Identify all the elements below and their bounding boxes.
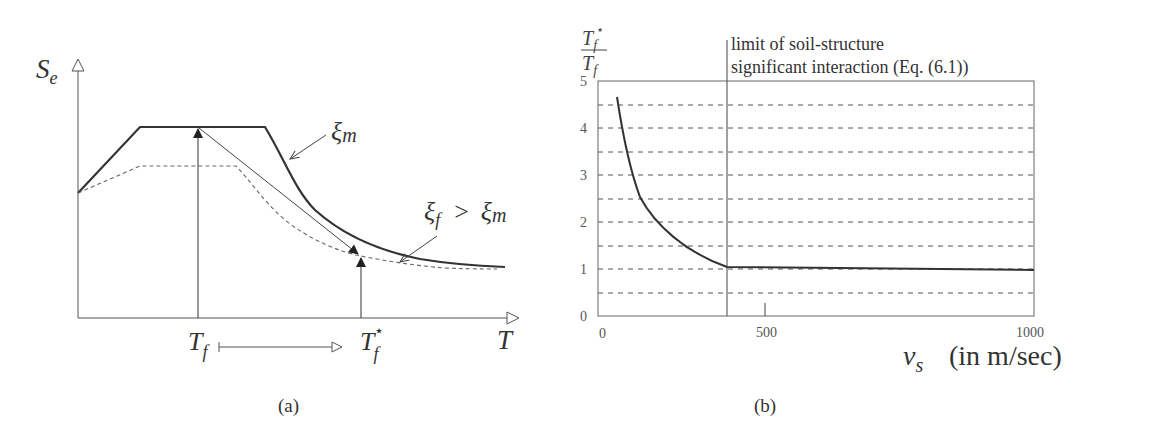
svg-text:1: 1 [580, 262, 587, 277]
figure-a: Se T Tf Tf ⋆ ξm ξf>ξm (a) [36, 54, 518, 417]
figure-canvas: Se T Tf Tf ⋆ ξm ξf>ξm (a) [0, 0, 1150, 430]
svg-text:1000: 1000 [1016, 325, 1044, 340]
caption-b: (b) [754, 395, 776, 417]
svg-text:500: 500 [756, 325, 777, 340]
y-tick-labels: 0 1 2 3 4 5 [580, 74, 587, 324]
x-axis-units: (in m/sec) [949, 340, 1062, 371]
tick-label-tf-star-sup: ⋆ [374, 322, 384, 339]
label-xi-f-gt-xi-m: ξf>ξm [424, 197, 506, 230]
xi-m-leader [290, 135, 326, 159]
figure-b: 0 1 2 3 4 5 0 500 1000 Tf ⋆ Tf limit of … [580, 22, 1062, 417]
y-label-numerator-sup: ⋆ [596, 22, 604, 37]
x-axis-label: vs [903, 340, 923, 376]
svg-text:0: 0 [580, 309, 587, 324]
svg-text:4: 4 [580, 121, 587, 136]
gridlines [598, 105, 1034, 293]
caption-a: (a) [278, 395, 299, 417]
period-shift-diagonal [199, 128, 358, 254]
curve-period-ratio [617, 97, 1034, 270]
svg-text:2: 2 [580, 215, 587, 230]
svg-text:0: 0 [599, 326, 606, 341]
tick-label-tf: Tf [188, 327, 210, 362]
curve-xi-m [78, 127, 505, 267]
svg-text:5: 5 [580, 74, 587, 89]
x-tick-labels: 0 500 1000 [599, 325, 1044, 341]
svg-text:3: 3 [580, 168, 587, 183]
label-xi-m: ξm [331, 117, 357, 146]
y-axis-label: Se [36, 54, 58, 88]
annotation-line-2: significant interaction (Eq. (6.1)) [731, 57, 968, 78]
x-axis-label: T [497, 325, 514, 355]
annotation-line-1: limit of soil-structure [731, 34, 884, 54]
